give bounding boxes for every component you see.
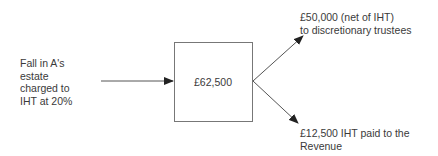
- source-label-line: estate: [20, 70, 72, 83]
- arrow-to-trustees: [253, 36, 303, 81]
- revenue-output-line: Revenue: [300, 140, 410, 153]
- source-label-line: IHT at 20%: [20, 95, 72, 108]
- trustees-output-label: £50,000 (net of IHT) to discretionary tr…: [300, 11, 411, 36]
- source-label: Fall in A's estate charged to IHT at 20%: [20, 57, 72, 107]
- revenue-output-label: £12,500 IHT paid to the Revenue: [300, 127, 410, 152]
- source-label-line: Fall in A's: [20, 57, 72, 70]
- box-value: £62,500: [174, 42, 252, 121]
- revenue-output-line: £12,500 IHT paid to the: [300, 127, 410, 140]
- source-label-line: charged to: [20, 82, 72, 95]
- arrow-to-revenue: [253, 81, 298, 123]
- trustees-output-line: £50,000 (net of IHT): [300, 11, 411, 24]
- trustees-output-line: to discretionary trustees: [300, 24, 411, 37]
